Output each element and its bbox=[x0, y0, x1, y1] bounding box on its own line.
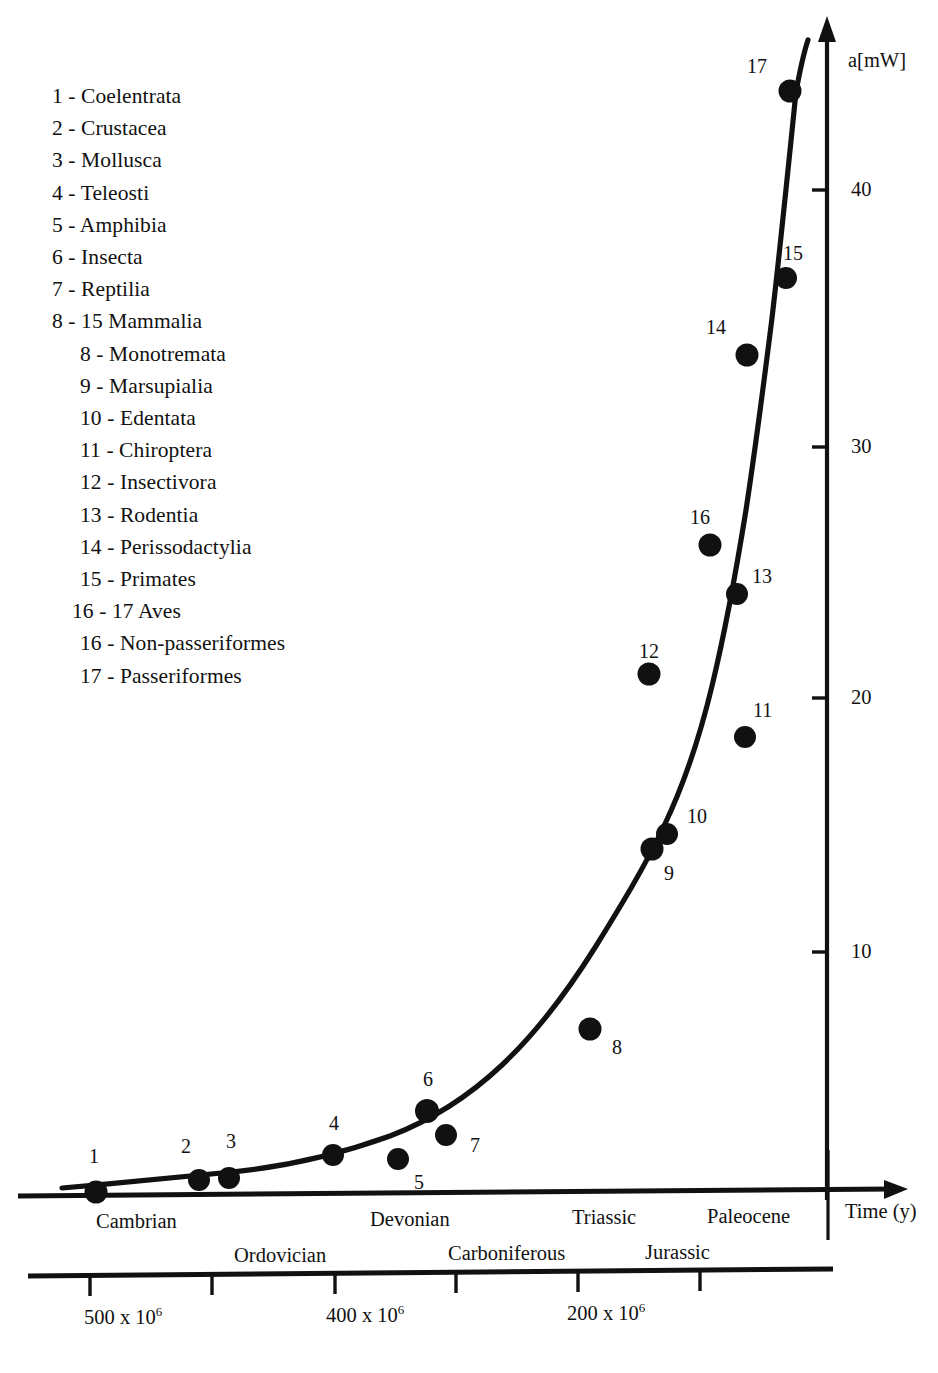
y-tick-label-20: 20 bbox=[851, 687, 872, 708]
point-label-9: 9 bbox=[664, 863, 674, 883]
point-label-14: 14 bbox=[706, 317, 726, 337]
time-scale-exponent: 6 bbox=[398, 1302, 405, 1317]
time-scale-label-500: 500 x 106 bbox=[84, 1307, 162, 1328]
data-point-6 bbox=[415, 1099, 439, 1123]
point-label-1: 1 bbox=[89, 1146, 99, 1166]
point-label-17: 17 bbox=[747, 56, 767, 76]
time-scale-label-200-text: 200 x 10 bbox=[567, 1302, 639, 1324]
time-scale-axis bbox=[28, 1269, 833, 1296]
data-point-14 bbox=[736, 344, 759, 367]
data-point-16 bbox=[699, 534, 722, 557]
y-axis-label: a[mW] bbox=[848, 50, 906, 71]
data-point-10 bbox=[656, 823, 678, 845]
data-point-3 bbox=[218, 1167, 240, 1189]
period-label-triassic: Triassic bbox=[572, 1207, 636, 1228]
y-tick-label-10: 10 bbox=[851, 941, 872, 962]
data-point-2 bbox=[188, 1169, 210, 1191]
period-label-cambrian: Cambrian bbox=[96, 1211, 177, 1232]
point-label-7: 7 bbox=[470, 1135, 480, 1155]
data-point-12 bbox=[638, 663, 661, 686]
point-label-16: 16 bbox=[690, 507, 710, 527]
data-point-15 bbox=[775, 267, 797, 289]
time-scale-label-200: 200 x 106 bbox=[567, 1303, 645, 1324]
figure-root: 1 - Coelentrata 2 - Crustacea 3 - Mollus… bbox=[0, 0, 938, 1373]
y-tick-label-40: 40 bbox=[851, 179, 872, 200]
period-label-carboniferous: Carboniferous bbox=[448, 1243, 565, 1264]
point-label-10: 10 bbox=[687, 806, 707, 826]
y-axis bbox=[818, 16, 836, 1200]
period-label-jurassic: Jurassic bbox=[645, 1242, 710, 1263]
period-label-devonian: Devonian bbox=[370, 1209, 450, 1230]
data-point-17 bbox=[779, 80, 802, 103]
data-point-7 bbox=[435, 1124, 457, 1146]
plot-vector-layer bbox=[0, 0, 938, 1373]
time-scale-label-400-text: 400 x 10 bbox=[326, 1304, 398, 1326]
point-label-2: 2 bbox=[181, 1136, 191, 1156]
data-point-4 bbox=[322, 1144, 344, 1166]
point-label-15: 15 bbox=[783, 243, 803, 263]
y-tick-label-30: 30 bbox=[851, 436, 872, 457]
point-label-8: 8 bbox=[612, 1037, 622, 1057]
point-label-4: 4 bbox=[329, 1113, 339, 1133]
data-point-11 bbox=[734, 726, 756, 748]
point-label-5: 5 bbox=[414, 1172, 424, 1192]
data-point-8 bbox=[579, 1018, 602, 1041]
data-point-5 bbox=[387, 1148, 409, 1170]
point-label-6: 6 bbox=[423, 1069, 433, 1089]
period-label-paleocene: Paleocene bbox=[707, 1206, 790, 1227]
point-label-3: 3 bbox=[226, 1131, 236, 1151]
point-label-11: 11 bbox=[753, 700, 772, 720]
x-axis bbox=[18, 1180, 908, 1199]
period-label-ordovician: Ordovician bbox=[234, 1245, 326, 1266]
x-axis-label: Time (y) bbox=[845, 1201, 917, 1222]
trend-curve bbox=[62, 40, 808, 1188]
point-label-12: 12 bbox=[639, 641, 659, 661]
time-scale-exponent: 6 bbox=[156, 1304, 163, 1319]
time-scale-label-500-text: 500 x 10 bbox=[84, 1306, 156, 1328]
time-scale-exponent: 6 bbox=[639, 1300, 646, 1315]
point-label-13: 13 bbox=[752, 566, 772, 586]
data-point-13 bbox=[726, 583, 748, 605]
data-point-1 bbox=[85, 1181, 108, 1204]
time-scale-label-400: 400 x 106 bbox=[326, 1305, 404, 1326]
data-points bbox=[85, 80, 802, 1204]
